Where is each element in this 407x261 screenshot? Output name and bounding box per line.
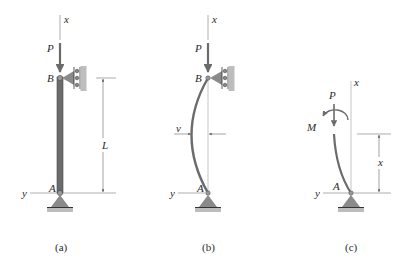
pin-a — [57, 190, 62, 195]
point-a-label: A — [332, 180, 340, 192]
load-p-label: P — [194, 42, 202, 54]
y-axis-label: y — [21, 187, 27, 199]
segment-length-label: x — [377, 156, 383, 168]
load-p-label: P — [328, 89, 336, 101]
y-axis-label: y — [314, 187, 320, 199]
roller-support-b — [210, 66, 235, 91]
panel-a: x P B A y L — [21, 13, 116, 254]
roller-support-b — [62, 66, 87, 91]
deflection-label: v — [176, 122, 181, 134]
pin-b — [206, 76, 210, 80]
panel-b: x P B A y v — [169, 13, 235, 254]
pin-a — [206, 191, 210, 195]
load-p-label: P — [46, 42, 54, 54]
caption-b: (b) — [202, 241, 215, 254]
x-axis-label: x — [353, 76, 359, 88]
column-member — [57, 77, 63, 193]
moment-m-arc — [323, 110, 348, 120]
length-label: L — [101, 139, 108, 151]
buckled-column — [192, 78, 209, 193]
panel-c: x P M A y x (c) — [306, 76, 391, 254]
column-buckling-figure: x P B A y L — [0, 0, 407, 261]
moment-label: M — [306, 121, 317, 133]
point-b-label: B — [195, 72, 202, 84]
x-axis-label: x — [63, 13, 69, 25]
caption-c: (c) — [345, 241, 358, 254]
point-b-label: B — [47, 72, 54, 84]
pin-support-a — [47, 195, 73, 212]
point-a-label: A — [196, 182, 204, 194]
figure-canvas: x P B A y L — [0, 0, 407, 261]
x-axis-label: x — [211, 13, 217, 25]
pin-b — [57, 75, 62, 80]
y-axis-label: y — [169, 187, 175, 199]
pin-support-a — [195, 195, 221, 212]
pin-a — [349, 191, 353, 195]
caption-a: (a) — [55, 241, 68, 254]
pin-support-a — [338, 195, 364, 212]
point-a-label: A — [48, 182, 56, 194]
